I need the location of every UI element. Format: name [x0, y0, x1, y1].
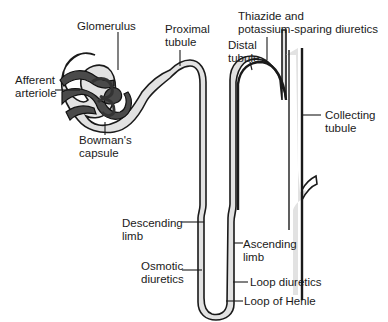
distal-tubule-inner-edge [238, 62, 286, 210]
nephron-diagram: Glomerulus Proximal tubule Afferent arte… [0, 0, 388, 322]
label-distal-1: Distal [228, 39, 257, 51]
label-loop-of-henle: Loop of Henle [244, 295, 316, 307]
label-osmotic-2: diuretics [141, 273, 184, 285]
collecting-tubule-branch [302, 176, 317, 200]
label-afferent-2: arteriole [15, 87, 57, 99]
label-descending-1: Descending [122, 217, 183, 229]
label-proximal-tubule-2: tubule [165, 36, 196, 48]
label-ascending-2: limb [243, 251, 264, 263]
label-descending-2: limb [122, 230, 143, 242]
label-bowman-2: capsule [79, 147, 119, 159]
label-collecting-2: tubule [325, 122, 356, 134]
label-ascending-1: Ascending [243, 238, 297, 250]
label-distal-2: tubule [228, 52, 259, 64]
label-loop-diuretics: Loop diuretics [250, 276, 322, 288]
label-thiazide-2: potassium-sparing diuretics [238, 23, 378, 35]
label-proximal-tubule-1: Proximal [165, 23, 210, 35]
label-glomerulus: Glomerulus [77, 20, 136, 32]
label-thiazide-1: Thiazide and [238, 10, 304, 22]
label-collecting-1: Collecting [325, 109, 376, 121]
nephron-svg: Glomerulus Proximal tubule Afferent arte… [0, 0, 388, 322]
label-bowman-1: Bowman's [79, 134, 132, 146]
label-afferent-1: Afferent [15, 74, 56, 86]
label-osmotic-1: Osmotic [141, 260, 183, 272]
